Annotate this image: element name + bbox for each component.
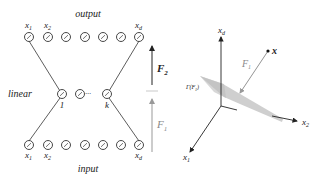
input-node-label: x2 [43, 150, 51, 161]
linear-label: linear [8, 88, 32, 99]
axis-xd-label: xd [217, 25, 226, 36]
output-node [99, 33, 108, 42]
input-node [62, 141, 71, 150]
output-node [117, 33, 126, 42]
hidden-node-label: 1 [60, 100, 65, 110]
output-node [25, 33, 34, 42]
output-node-label: x2 [43, 20, 51, 31]
data-point-label: x [271, 45, 277, 56]
axis-x1 [190, 106, 221, 152]
diagram-canvas: x1x2xd 1k x1x2xd output input linear ···… [0, 0, 324, 183]
input-label: input [78, 163, 99, 174]
hidden-ellipsis: ··· [85, 89, 91, 98]
axis-x2-label: x2 [301, 117, 309, 128]
input-node [135, 141, 144, 150]
input-node [81, 141, 90, 150]
network-connections [29, 41, 139, 141]
hidden-node-label: k [105, 100, 110, 110]
projection-label: F1 [241, 58, 251, 70]
output-node [81, 33, 90, 42]
input-node [25, 141, 34, 150]
axis-x1-label: x1 [182, 152, 190, 163]
input-node-label: x1 [24, 150, 32, 161]
input-node [117, 141, 126, 150]
output-node [135, 33, 144, 42]
input-node [44, 141, 53, 150]
encoder-label: F1 [156, 118, 167, 133]
input-node-label: xd [134, 150, 143, 161]
surface-label: Γ(F1) [185, 84, 199, 92]
output-node [62, 33, 71, 42]
output-layer: x1x2xd [24, 20, 144, 42]
gamma-surface-shade [200, 76, 226, 98]
hidden-node [103, 90, 112, 99]
output-label: output [75, 8, 101, 19]
input-layer: x1x2xd [24, 141, 144, 162]
output-node-label: xd [134, 20, 143, 31]
decoder-label: F2 [156, 62, 168, 77]
hidden-node [76, 90, 85, 99]
output-node [44, 33, 53, 42]
output-node-label: x1 [24, 20, 32, 31]
data-point [266, 49, 269, 52]
hidden-node [58, 90, 67, 99]
input-node [99, 141, 108, 150]
